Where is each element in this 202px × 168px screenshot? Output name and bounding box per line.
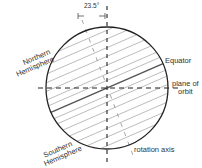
equator-label: Equator	[165, 57, 191, 65]
tilt-angle-marker	[78, 13, 105, 19]
tilt-angle-label: 23.5°	[84, 2, 99, 10]
earth-tilt-diagram: 23.5° Northern Hemisphere Southern Hemis…	[0, 0, 202, 168]
rotation-axis-label: rotation axis	[134, 146, 174, 154]
plane-of-orbit-label: plane of orbit	[172, 80, 199, 96]
